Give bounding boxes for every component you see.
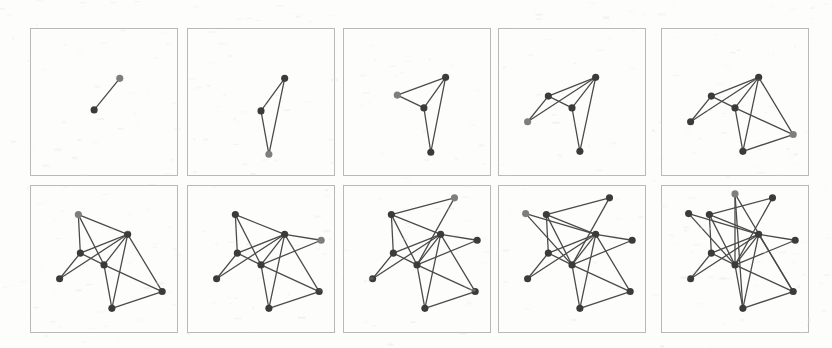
graph-node — [91, 106, 98, 113]
graph-node — [257, 107, 264, 114]
graph-edge — [528, 77, 596, 121]
graph-node — [232, 211, 239, 218]
graph-node — [369, 275, 376, 282]
graph-edge — [596, 234, 633, 240]
graph-panel-5 — [661, 28, 809, 176]
graph-edge — [691, 253, 712, 279]
graph-node — [265, 151, 272, 158]
graph-canvas — [31, 29, 177, 175]
graph-node — [108, 305, 115, 312]
graph-canvas — [188, 29, 334, 175]
graph-node — [388, 211, 395, 218]
graph-edge — [691, 77, 759, 121]
graph-node — [592, 231, 599, 238]
graph-edge — [572, 265, 580, 308]
graph-node — [124, 231, 131, 238]
graph-edge — [235, 215, 237, 253]
edge-group — [261, 78, 285, 154]
graph-edge — [689, 214, 735, 265]
graph-node — [576, 148, 583, 155]
node-group — [369, 194, 481, 312]
graph-edge — [217, 234, 285, 278]
graph-edge — [60, 234, 128, 278]
graph-node — [792, 237, 799, 244]
graph-edge — [526, 214, 596, 235]
figure-root — [0, 0, 832, 348]
graph-node — [592, 74, 599, 81]
graph-edge — [546, 215, 595, 235]
graph-node — [100, 261, 107, 268]
graph-canvas — [662, 186, 808, 332]
graph-edge — [417, 265, 425, 308]
graph-node — [316, 288, 323, 295]
graph-edge — [391, 215, 440, 235]
graph-edge — [572, 108, 580, 151]
graph-edge — [104, 265, 112, 308]
graph-edge — [709, 198, 772, 215]
graph-edge — [261, 111, 269, 154]
graph-node — [543, 211, 550, 218]
graph-node — [427, 149, 434, 156]
graph-panel-4 — [498, 28, 646, 176]
graph-canvas — [344, 186, 490, 332]
graph-edge — [391, 215, 393, 253]
graph-node — [281, 231, 288, 238]
graph-edge — [235, 215, 261, 265]
graph-node — [75, 211, 82, 218]
graph-edge — [269, 292, 319, 309]
graph-panel-2 — [187, 28, 335, 176]
graph-panel-8 — [343, 185, 491, 333]
graph-panel-3 — [343, 28, 491, 176]
graph-node — [687, 275, 694, 282]
graph-node — [731, 190, 738, 197]
graph-edge — [397, 95, 424, 108]
graph-edge — [743, 292, 793, 309]
graph-node — [522, 210, 529, 217]
graph-node — [390, 250, 397, 257]
graph-canvas — [499, 29, 645, 175]
graph-edge — [261, 265, 269, 308]
graph-node — [755, 74, 762, 81]
graph-node — [545, 250, 552, 257]
graph-node — [708, 250, 715, 257]
node-group — [56, 211, 166, 312]
edge-group — [60, 215, 163, 309]
graph-node — [451, 194, 458, 201]
graph-edge — [441, 234, 478, 240]
graph-node — [474, 237, 481, 244]
graph-node — [318, 237, 325, 244]
graph-node — [437, 231, 444, 238]
graph-node — [790, 288, 797, 295]
graph-edge — [735, 194, 743, 308]
graph-edge — [94, 78, 120, 110]
graph-node — [394, 92, 401, 99]
graph-node — [706, 211, 713, 218]
graph-canvas — [344, 29, 490, 175]
graph-node — [769, 194, 776, 201]
graph-node — [568, 104, 575, 111]
graph-node — [545, 93, 552, 100]
graph-edge — [60, 253, 81, 279]
graph-edge — [112, 292, 162, 309]
graph-edge — [759, 234, 796, 240]
graph-node — [708, 93, 715, 100]
edge-group — [397, 77, 445, 152]
graph-node — [56, 275, 63, 282]
graph-edge — [709, 215, 735, 265]
graph-edge — [373, 253, 394, 279]
graph-node — [731, 261, 738, 268]
graph-canvas — [31, 186, 177, 332]
graph-node — [606, 194, 613, 201]
graph-panel-7 — [187, 185, 335, 333]
graph-edge — [743, 135, 793, 152]
graph-canvas — [662, 29, 808, 175]
graph-edge — [528, 253, 549, 279]
graph-node — [159, 288, 166, 295]
graph-node — [472, 288, 479, 295]
graph-edge — [546, 215, 572, 265]
graph-edge — [691, 96, 712, 122]
graph-edge — [425, 292, 475, 309]
graph-node — [790, 131, 797, 138]
graph-node — [234, 250, 241, 257]
edge-group — [94, 78, 120, 110]
